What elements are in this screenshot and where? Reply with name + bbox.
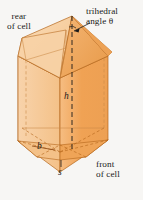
front-label-line2: of cell bbox=[96, 169, 120, 179]
trihedral-label-line1: trihedral bbox=[86, 6, 118, 16]
trihedral-angle-label: trihedralangle θ bbox=[86, 7, 118, 26]
segment-label-b: b bbox=[37, 142, 42, 152]
rear-label-line1: rear bbox=[12, 11, 27, 21]
side-label-s: s bbox=[58, 168, 62, 178]
front-label-line1: front bbox=[96, 159, 114, 169]
rear-label-line2: of cell bbox=[7, 21, 31, 31]
trihedral-label-line2: angle θ bbox=[86, 16, 113, 26]
height-label-h: h bbox=[64, 92, 69, 102]
rear-of-cell-label: rearof cell bbox=[7, 12, 31, 31]
front-of-cell-label: frontof cell bbox=[96, 160, 120, 179]
